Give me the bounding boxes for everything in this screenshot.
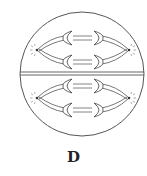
lower-cell xyxy=(30,79,136,117)
figure-label: D xyxy=(0,148,147,166)
cell-plate xyxy=(20,72,144,75)
cell-membrane xyxy=(20,12,144,136)
upper-cell xyxy=(30,31,136,69)
